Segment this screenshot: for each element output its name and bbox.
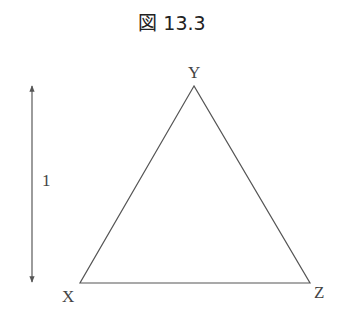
vertex-y-label: Y (188, 63, 200, 82)
triangle (80, 86, 310, 283)
triangle-diagram: 1 Y X Z (0, 0, 344, 315)
height-label: 1 (42, 171, 51, 190)
vertex-x-label: X (62, 287, 74, 306)
vertex-z-label: Z (314, 283, 324, 302)
